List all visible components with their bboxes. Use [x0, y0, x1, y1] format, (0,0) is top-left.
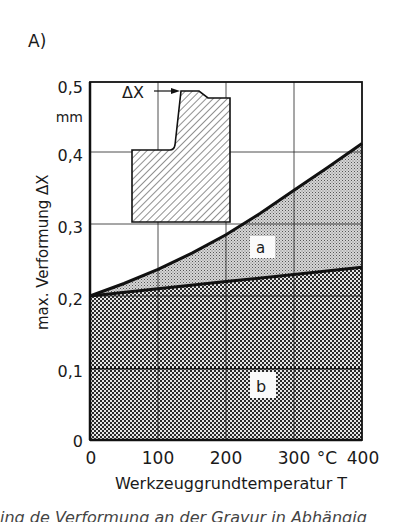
svg-text:200: 200: [210, 448, 242, 468]
region-a-label: a: [256, 239, 265, 257]
arrow-icon: [171, 88, 180, 94]
x-axis-ticks: 0 100 200 300 °C 400: [86, 448, 380, 468]
svg-text:°C: °C: [317, 448, 337, 468]
x-axis-label: Werkzeuggrundtemperatur T: [115, 474, 347, 493]
figure-caption-clipped: ing de Verformung an der Gravur in Abhän…: [0, 507, 400, 522]
inset-dx-label: ΔX: [122, 83, 144, 102]
svg-text:0,1: 0,1: [58, 362, 83, 381]
svg-text:mm: mm: [56, 109, 83, 125]
inset-cross-section: ΔX: [122, 83, 230, 222]
svg-text:400: 400: [347, 448, 379, 468]
svg-text:0,5: 0,5: [58, 78, 83, 97]
svg-text:100: 100: [142, 448, 174, 468]
panel-label: A): [28, 31, 46, 51]
svg-text:0,4: 0,4: [58, 146, 83, 165]
svg-text:0: 0: [86, 448, 97, 468]
svg-text:0: 0: [73, 432, 83, 451]
chart: A) ΔX a b 0,5 mm 0,4 0,3 0,2 0,1: [0, 0, 400, 522]
svg-text:300: 300: [278, 448, 310, 468]
y-axis-label: max. Verformung ΔX: [34, 174, 52, 330]
svg-text:0,2: 0,2: [58, 290, 83, 309]
y-axis-ticks: 0,5 mm 0,4 0,3 0,2 0,1 0: [56, 78, 83, 451]
region-b-label: b: [256, 377, 266, 396]
svg-text:0,3: 0,3: [58, 218, 83, 237]
